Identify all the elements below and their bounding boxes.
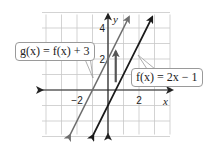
y-axis-label: y	[112, 13, 118, 25]
x-axis-label: x	[162, 95, 168, 107]
g-function-callout: g(x) = f(x) + 3	[15, 42, 95, 61]
x-tick-label: −2	[71, 95, 83, 106]
f-function-callout: f(x) = 2x − 1	[131, 68, 203, 87]
y-tick-label: 4	[99, 23, 105, 34]
f-callout-pointer	[138, 55, 155, 69]
line-g	[70, 17, 129, 135]
x-tick-label: 2	[136, 95, 142, 106]
y-tick-label: 2	[99, 54, 105, 65]
